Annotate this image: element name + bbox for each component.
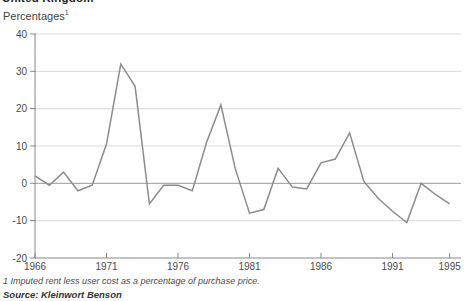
footnote: 1 Imputed rent less user cost as a perce… bbox=[3, 276, 260, 286]
y-tick-label: 20 bbox=[16, 103, 28, 114]
source-credit: Source: Kleinwort Benson bbox=[3, 289, 122, 300]
data-line bbox=[35, 64, 450, 223]
x-axis-labels: 1966197119761981198619911995 bbox=[24, 261, 461, 272]
x-tick-label: 1995 bbox=[439, 261, 462, 272]
x-tick-label: 1966 bbox=[24, 261, 47, 272]
gridlines bbox=[35, 34, 461, 221]
x-axis-ticks bbox=[35, 253, 450, 258]
chart-page: { "title": "United Kingdom", "y_axis_uni… bbox=[0, 0, 467, 301]
y-tick-label: 10 bbox=[16, 141, 28, 152]
y-axis-labels: 403020100-10-20 bbox=[13, 29, 28, 264]
y-tick-label: 0 bbox=[21, 178, 27, 189]
x-tick-label: 1986 bbox=[310, 261, 333, 272]
y-tick-label: -10 bbox=[13, 215, 28, 226]
x-tick-label: 1976 bbox=[167, 261, 190, 272]
x-tick-label: 1991 bbox=[381, 261, 404, 272]
line-chart: 403020100-10-20 196619711976198119861991… bbox=[0, 0, 467, 301]
x-tick-label: 1981 bbox=[238, 261, 261, 272]
y-tick-label: 30 bbox=[16, 66, 28, 77]
x-tick-label: 1971 bbox=[95, 261, 118, 272]
y-tick-label: 40 bbox=[16, 29, 28, 40]
